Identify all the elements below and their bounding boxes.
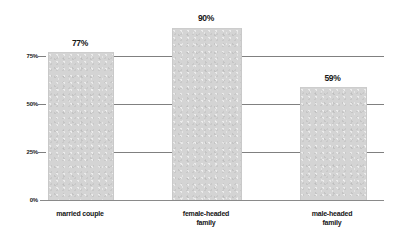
value-label-male-headed-family: 59% bbox=[300, 73, 365, 83]
bar-female-headed-family[interactable] bbox=[172, 28, 242, 201]
plot-area: 75% 50% 25% 0% 77% 90% 59% married coupl… bbox=[0, 0, 393, 248]
x-axis-line bbox=[40, 200, 384, 201]
ytick-label-25: 25% bbox=[4, 149, 38, 156]
ytick-label-0: 0% bbox=[4, 197, 38, 204]
category-label-married-couple: married couple bbox=[34, 209, 126, 218]
category-label-line1: male-headed bbox=[312, 210, 353, 217]
category-label-female-headed-family: female-headed family bbox=[160, 209, 252, 227]
tick-mark-50 bbox=[38, 104, 46, 105]
bar-chart: 75% 50% 25% 0% 77% 90% 59% married coupl… bbox=[0, 0, 393, 248]
ytick-label-75: 75% bbox=[4, 53, 38, 60]
category-label-line2: family bbox=[286, 218, 378, 227]
value-label-married-couple: 77% bbox=[48, 38, 112, 48]
category-label-male-headed-family: male-headed family bbox=[286, 209, 378, 227]
bar-male-headed-family[interactable] bbox=[300, 87, 367, 201]
category-label-line1: married couple bbox=[56, 210, 103, 217]
tick-mark-25 bbox=[38, 152, 46, 153]
category-label-line2: family bbox=[160, 218, 252, 227]
ytick-label-50: 50% bbox=[4, 101, 38, 108]
value-label-female-headed-family: 90% bbox=[172, 13, 240, 23]
bar-married-couple[interactable] bbox=[48, 52, 114, 201]
category-label-line1: female-headed bbox=[183, 210, 229, 217]
tick-mark-75 bbox=[38, 56, 46, 57]
